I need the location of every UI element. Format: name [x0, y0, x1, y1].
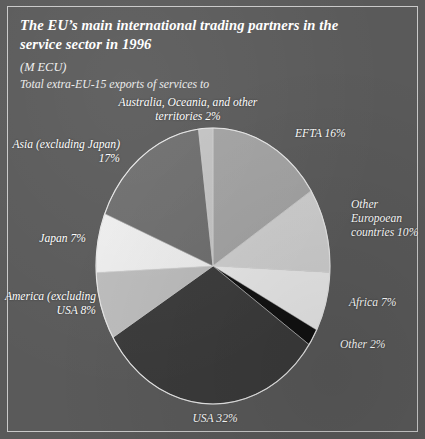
slice-label-other-european: Other Europoean countries 10%	[351, 198, 423, 240]
infographic-card: The EU’s main international trading part…	[0, 0, 425, 439]
slice-label-japan: Japan 7%	[6, 232, 86, 246]
slice-label-america: America (excluding USA 8%	[4, 290, 96, 318]
slice-label-asia: Asia (excluding Japan) 17%	[2, 138, 120, 166]
slice-label-usa: USA 32%	[150, 412, 280, 426]
slice-label-other: Other 2%	[340, 338, 424, 352]
pie-slices	[96, 128, 330, 404]
slice-label-efta: EFTA 16%	[295, 127, 405, 141]
slice-label-australia: Australia, Oceania, and other territorie…	[104, 96, 272, 124]
slice-label-africa: Africa 7%	[349, 296, 423, 310]
